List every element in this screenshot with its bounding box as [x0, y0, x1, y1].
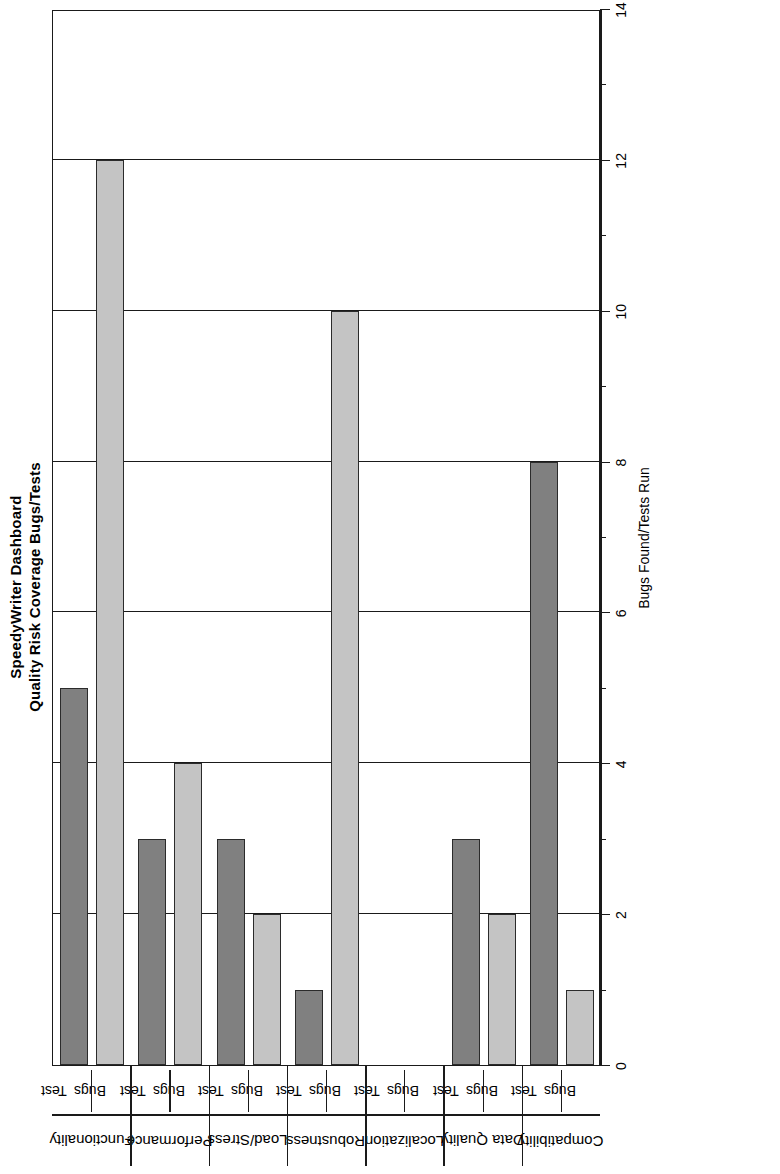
series-separator — [91, 1070, 92, 1112]
series-separator — [326, 1070, 327, 1112]
axis-tick-minor — [600, 386, 606, 387]
category-separator — [209, 1066, 211, 1166]
category-label-compatibility: Compatibility — [522, 1116, 600, 1166]
axis-tick-major — [600, 763, 610, 764]
axis-tick-minor — [600, 990, 606, 991]
gridline — [53, 159, 599, 160]
plot-area — [52, 10, 600, 1066]
axis-tick-major — [600, 9, 610, 10]
gridline — [53, 611, 599, 612]
category-separator — [522, 1066, 524, 1166]
category-label-localization: Localization — [365, 1116, 443, 1166]
label-column-divider — [52, 1115, 600, 1117]
chart-title-block: SpeedyWriter Dashboard Quality Risk Cove… — [6, 0, 44, 1174]
series-separator — [169, 1070, 170, 1112]
bar-compatibility-test — [530, 462, 558, 1065]
axis-tick-major — [600, 160, 610, 161]
category-label-performance: Performance — [130, 1116, 208, 1166]
category-label-load-stress: Load/Stress — [209, 1116, 287, 1166]
bar-robustness-bugs — [331, 311, 359, 1065]
value-axis-title: Bugs Found/Tests Run — [636, 10, 652, 1066]
bar-performance-bugs — [174, 763, 202, 1065]
series-separator — [248, 1070, 249, 1112]
axis-tick-major — [600, 311, 610, 312]
axis-line — [600, 10, 602, 1066]
series-label-test: Test — [193, 1066, 230, 1116]
series-separator — [561, 1070, 562, 1112]
axis-tick-label: 8 — [613, 459, 629, 467]
value-axis: 02468101214 — [600, 10, 601, 1066]
axis-tick-major — [600, 612, 610, 613]
axis-tick-minor — [600, 688, 606, 689]
series-separator — [404, 1070, 405, 1112]
axis-tick-label: 10 — [613, 304, 629, 320]
rotated-figure-wrapper: SpeedyWriter Dashboard Quality Risk Cove… — [0, 0, 780, 1174]
axis-tick-label: 12 — [613, 153, 629, 169]
series-label-test: Test — [349, 1066, 386, 1116]
series-label-test: Test — [427, 1066, 464, 1116]
chart-title: SpeedyWriter Dashboard — [6, 0, 25, 1174]
series-label-test: Test — [271, 1066, 308, 1116]
axis-tick-label: 4 — [613, 760, 629, 768]
axis-tick-label: 2 — [613, 911, 629, 919]
axis-tick-minor — [600, 84, 606, 85]
bar-compatibility-bugs — [566, 990, 594, 1065]
bar-functionality-bugs — [96, 160, 124, 1065]
category-separator — [130, 1066, 132, 1166]
category-separator — [287, 1066, 289, 1166]
axis-tick-major — [600, 462, 610, 463]
series-label-test: Test — [114, 1066, 151, 1116]
gridline — [53, 762, 599, 763]
axis-tick-label: 6 — [613, 610, 629, 618]
bar-data-quality-bugs — [488, 914, 516, 1065]
bar-performance-test — [138, 839, 166, 1065]
category-separator — [365, 1066, 367, 1166]
chart-figure: SpeedyWriter Dashboard Quality Risk Cove… — [0, 0, 780, 1174]
chart-subtitle: Quality Risk Coverage Bugs/Tests — [25, 0, 44, 1174]
series-separator — [483, 1070, 484, 1112]
category-separator — [443, 1066, 445, 1166]
axis-tick-minor — [600, 537, 606, 538]
bar-load-stress-test — [217, 839, 245, 1065]
gridline — [53, 913, 599, 914]
gridline — [53, 310, 599, 311]
axis-tick-label: 0 — [613, 1062, 629, 1070]
series-label-test: Test — [36, 1066, 73, 1116]
gridline — [53, 461, 599, 462]
bar-data-quality-test — [452, 839, 480, 1065]
axis-tick-major — [600, 914, 610, 915]
category-label-robustness: Robustness — [287, 1116, 365, 1166]
axis-tick-label: 14 — [613, 2, 629, 18]
axis-tick-major — [600, 1065, 610, 1066]
bar-functionality-test — [60, 688, 88, 1065]
bar-load-stress-bugs — [253, 914, 281, 1065]
category-label-data-quality: Data Quality — [443, 1116, 521, 1166]
bar-robustness-test — [295, 990, 323, 1065]
axis-tick-minor — [600, 235, 606, 236]
series-label-test: Test — [506, 1066, 543, 1116]
category-label-functionality: Functionality — [52, 1116, 130, 1166]
axis-tick-minor — [600, 839, 606, 840]
